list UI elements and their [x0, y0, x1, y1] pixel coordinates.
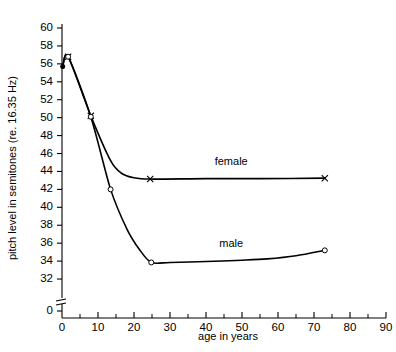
- y-tick-label: 48: [40, 129, 53, 141]
- y-tick-label: 42: [40, 182, 53, 194]
- y-tick-label: 50: [40, 111, 53, 123]
- y-tick-label: 46: [40, 147, 53, 159]
- marker-circle-male: [88, 114, 93, 119]
- x-tick-label: 70: [308, 321, 321, 333]
- y-tick-label: 60: [40, 21, 53, 33]
- marker-dot-male: [60, 64, 65, 69]
- x-tick-label: 30: [164, 321, 177, 333]
- x-tick-label: 60: [272, 321, 285, 333]
- y-tick-label: 58: [40, 39, 53, 51]
- x-tick-label: 20: [128, 321, 141, 333]
- x-axis-title: age in years: [198, 330, 258, 342]
- y-tick-label: 56: [40, 57, 53, 69]
- y-tick-label-zero: 0: [47, 304, 53, 316]
- x-tick-label: 10: [92, 321, 105, 333]
- y-tick-label: 52: [40, 93, 53, 105]
- y-tick-label: 34: [40, 254, 53, 266]
- series-label-male: male: [219, 237, 243, 249]
- y-tick-label: 36: [40, 236, 53, 248]
- marker-circle-male: [66, 54, 71, 59]
- x-tick-label: 80: [344, 321, 357, 333]
- y-tick-label: 44: [40, 164, 53, 176]
- marker-circle-male: [322, 248, 327, 253]
- series-annotation-group: femalemale: [215, 155, 248, 249]
- y-tick-label: 38: [40, 218, 53, 230]
- pitch-age-chart-figure: 3234363840424446485052545658600 01020304…: [0, 0, 396, 352]
- marker-circle-male: [149, 260, 154, 265]
- y-tick-label: 32: [40, 272, 53, 284]
- y-tick-label: 54: [40, 75, 53, 87]
- y-tick-label: 40: [40, 200, 53, 212]
- marker-circle-male: [108, 187, 113, 192]
- y-axis-title: pitch level in semitones (re. 16.35 Hz): [6, 76, 18, 260]
- x-tick-label: 0: [59, 321, 65, 333]
- x-tick-label: 90: [380, 321, 393, 333]
- series-label-female: female: [215, 155, 248, 167]
- series-line-male: [63, 55, 325, 263]
- chart-canvas: 3234363840424446485052545658600 01020304…: [0, 0, 396, 352]
- data-series-group: [60, 54, 328, 265]
